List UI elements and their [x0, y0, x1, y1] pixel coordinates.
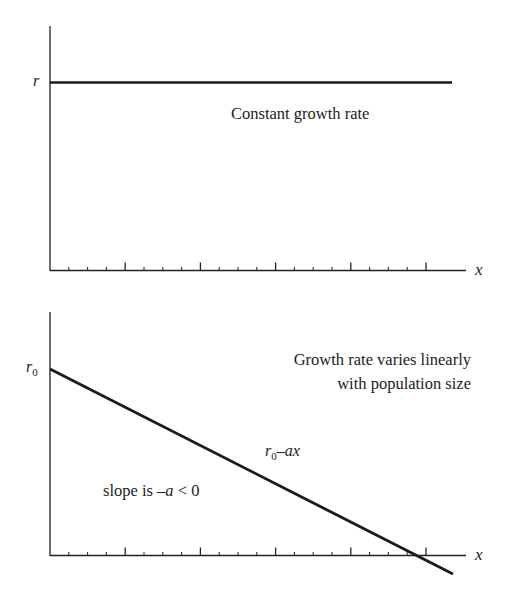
- constant-growth-panel: [50, 26, 466, 271]
- x-axis-label: x: [475, 260, 483, 280]
- slope-suffix: < 0: [174, 481, 200, 500]
- caption-line-1: Growth rate varies linearly: [294, 348, 471, 372]
- slope-variable: –a: [157, 481, 174, 500]
- caption-linear-growth: Growth rate varies linearly with populat…: [294, 348, 471, 396]
- subscript-zero: 0: [271, 450, 277, 462]
- x-axis-ticks: [69, 548, 426, 556]
- x-axis-ticks: [69, 263, 426, 271]
- slope-prefix: slope is: [103, 481, 157, 500]
- line-label-r0-ax: r0–ax: [265, 442, 300, 460]
- caption-line-2: with population size: [294, 372, 471, 396]
- subscript-zero: 0: [32, 366, 38, 378]
- diagram-canvas: [0, 0, 509, 602]
- x-axis-label: x: [475, 545, 483, 565]
- caption-constant-growth: Constant growth rate: [231, 104, 369, 124]
- linear-rate-line: [50, 369, 453, 574]
- slope-annotation: slope is –a < 0: [103, 481, 199, 501]
- minus-ax: –ax: [277, 442, 300, 459]
- y-axis-label-r: r: [33, 72, 39, 90]
- y-axis-label-r0: r0: [26, 358, 38, 376]
